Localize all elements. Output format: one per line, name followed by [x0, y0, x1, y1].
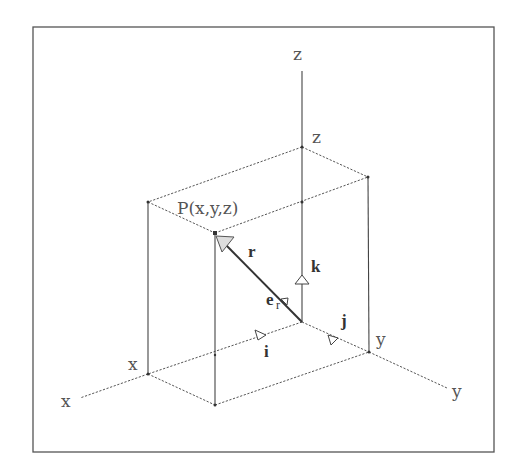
z-axis-label: z: [293, 44, 302, 64]
y-axis-extension: [369, 352, 447, 388]
vertex-dot: [147, 201, 150, 204]
arrowhead-j-icon: [328, 335, 338, 345]
box-bottom-front-right: [215, 352, 369, 405]
x-axis-label: x: [61, 391, 71, 411]
z-intercept-label: z: [312, 127, 321, 147]
vertex-dot: [214, 354, 216, 356]
vertex-dot: [301, 201, 304, 204]
box-top-back-left: [148, 147, 302, 202]
x-intercept-label: x: [128, 354, 138, 374]
y-axis-label: y: [451, 381, 462, 401]
vector-k-label: k: [311, 257, 321, 276]
arrowhead-k-icon: [295, 275, 309, 284]
arrowhead-i-icon: [255, 330, 266, 340]
vertex-dot: [214, 404, 217, 407]
vertex-dot: [368, 351, 371, 354]
point-p-marker: [213, 231, 217, 235]
vector-i-label: i: [264, 342, 269, 361]
point-p-label: P(x,y,z): [177, 198, 238, 218]
vector-er-label: e: [266, 290, 274, 309]
vector-er-subscript: r: [276, 298, 280, 312]
vector-j-label: j: [340, 311, 347, 330]
vector-r-label: r: [248, 242, 256, 261]
box-edge-right: [368, 177, 369, 352]
position-vector-r: [224, 243, 302, 322]
box-bottom-front-left: [148, 374, 215, 405]
vertex-dot: [147, 373, 150, 376]
x-axis-segment: [148, 322, 302, 374]
box-top-back-right: [302, 147, 368, 177]
y-intercept-label: y: [375, 329, 386, 349]
vertex-dot: [301, 146, 304, 149]
coordinate-diagram: z z P(x,y,z) x x y y r k e r i j: [0, 0, 531, 474]
vertex-dot: [367, 176, 370, 179]
x-axis-extension: [80, 374, 148, 398]
